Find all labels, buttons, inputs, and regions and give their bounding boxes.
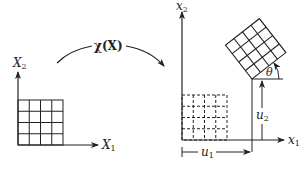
deformed-grid-rotated (226, 19, 286, 79)
left-y-axis-label: X2 (13, 57, 27, 71)
left-reference-grid (18, 100, 63, 145)
left-x-axis-label: X1 (102, 139, 116, 153)
rotation-angle-label: θ (266, 67, 273, 78)
mapping-label: χ(X) (94, 40, 123, 52)
translation-u2-label: u2 (256, 109, 269, 123)
right-x-axis-label: x1 (288, 134, 300, 148)
right-reference-grid-dashed (182, 95, 227, 140)
translation-u1-label: u1 (201, 146, 214, 160)
diagram-graphics (0, 0, 308, 171)
rigid-motion-diagram: X2 X1 χ(X) x2 x1 u1 u2 θ (0, 0, 308, 171)
right-y-axis-label: x2 (176, 0, 188, 14)
